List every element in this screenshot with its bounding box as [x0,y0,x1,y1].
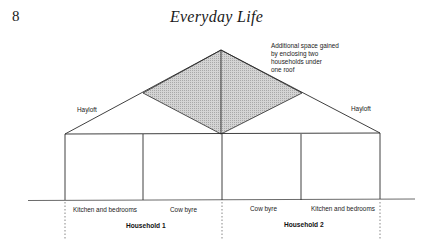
annotation-line-3: households under [271,58,323,65]
room-label-3: Cow byre [250,205,277,213]
household-2-label: Household 2 [284,221,324,228]
room-label-1: Kitchen and bedrooms [73,206,137,213]
ground-line [28,199,415,201]
eave-line [65,133,380,134]
hayloft-right-label: Hayloft [351,105,371,113]
room-label-4: Kitchen and bedrooms [311,205,375,212]
annotation-line-2: by enclosing two [271,50,319,58]
household-1-label: Household 1 [126,222,166,229]
annotation-line-1: Additional space gained [271,42,339,50]
hayloft-left-label: Hayloft [77,106,97,114]
longhouse-diagram: Additional space gained by enclosing two… [0,0,433,245]
room-label-2: Cow byre [170,206,197,214]
annotation-line-4: one roof [271,66,295,73]
